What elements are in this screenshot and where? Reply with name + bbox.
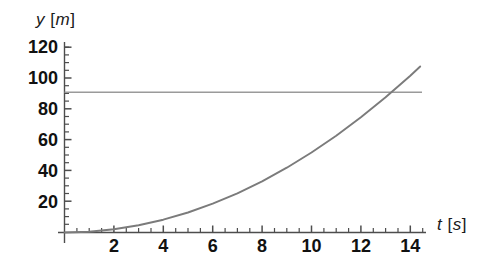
x-tick-label: 12 <box>351 236 371 256</box>
x-axis-major-ticks <box>114 226 410 233</box>
y-tick-label: 120 <box>28 37 58 57</box>
axes-group <box>58 42 426 243</box>
x-axis-title-unit: [s] <box>447 215 466 234</box>
x-axis-title: t [s] <box>437 215 467 235</box>
x-tick-label: 6 <box>208 236 218 256</box>
chart-figure: 20 40 60 80 100 120 <box>0 0 488 260</box>
x-tick-label: 4 <box>158 236 168 256</box>
x-tick-label: 14 <box>400 236 420 256</box>
y-tick-label: 20 <box>38 192 58 212</box>
y-tick-label: 40 <box>38 161 58 181</box>
y-axis-title-var: y <box>36 10 45 29</box>
y-tick-label: 60 <box>38 130 58 150</box>
x-tick-label: 2 <box>109 236 119 256</box>
x-tick-label: 8 <box>257 236 267 256</box>
y-tick-label: 100 <box>28 68 58 88</box>
y-axis-title-unit: [m] <box>50 10 75 29</box>
y-tick-label: 80 <box>38 99 58 119</box>
x-axis-tick-labels: 2 4 6 8 10 12 14 <box>109 236 420 256</box>
y-axis-title: y [m] <box>36 10 75 30</box>
x-tick-label: 10 <box>301 236 321 256</box>
y-axis-tick-labels: 20 40 60 80 100 120 <box>28 37 58 212</box>
plot-area: 20 40 60 80 100 120 <box>0 0 488 260</box>
